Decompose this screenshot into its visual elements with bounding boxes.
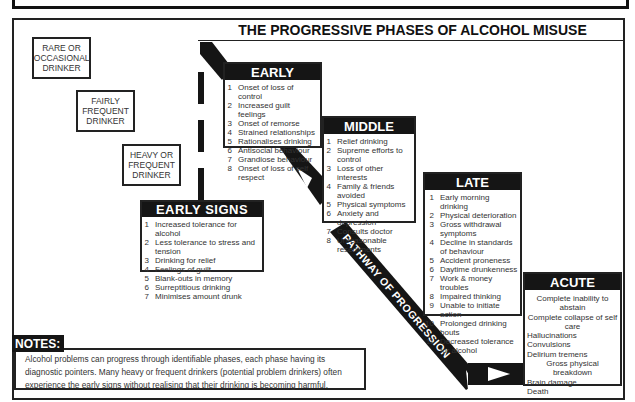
list-item: 9Unable to initiate action — [425, 301, 518, 319]
item-text: Strained relationships — [238, 128, 318, 137]
notes-box: Alcohol problems can progress through id… — [14, 348, 366, 390]
list-item: 1Onset of loss of control — [227, 83, 318, 101]
item-text: Impaired thinking — [440, 292, 518, 301]
item-text: Loss of other interests — [337, 164, 412, 182]
list-item: 3Loss of other interests — [326, 164, 412, 182]
list-item: 6Daytime drunkenness — [425, 265, 518, 274]
item-text: Surreptitious drinking — [155, 283, 260, 292]
list-item: Gross physical breakdown — [527, 359, 618, 378]
item-number: 1 — [425, 193, 434, 211]
list-item: 6Antisocial behaviour — [227, 146, 318, 155]
item-text: Blank-outs in memory — [155, 274, 260, 283]
phase-title: ACUTE — [525, 274, 620, 290]
item-number: 6 — [144, 283, 149, 292]
item-number: 4 — [326, 182, 331, 200]
item-number: 6 — [326, 209, 331, 227]
item-text: Unable to initiate action — [440, 301, 518, 319]
item-text: Physical deterioration — [440, 211, 518, 220]
item-text: Grandiose behaviour — [238, 155, 318, 164]
phase-early-signs: EARLY SIGNS 1Increased tolerance for alc… — [140, 200, 264, 272]
list-item: 5Accident proneness — [425, 256, 518, 265]
item-text: Drinking for relief — [155, 256, 260, 265]
phase-title: MIDDLE — [324, 118, 414, 134]
drinker-label: FAIRLY FREQUENT DRINKER — [78, 96, 133, 126]
item-number: 6 — [227, 146, 232, 155]
item-number: 7 — [326, 227, 331, 236]
list-item: Convulsions — [527, 340, 618, 349]
list-item: 5Blank-outs in memory — [144, 274, 260, 283]
list-item: 4Feelings of guilt — [144, 265, 260, 274]
list-item: 7Consults doctor — [326, 227, 412, 236]
notes-label: NOTES: — [12, 335, 64, 352]
item-number: 3 — [326, 164, 331, 182]
drinker-label: HEAVY OR FREQUENT DRINKER — [124, 150, 179, 180]
item-number: 5 — [227, 137, 232, 146]
item-text: Family & friends avoided — [337, 182, 412, 200]
item-text: Decreased tolerance for alcohol — [440, 337, 518, 355]
item-text: Consults doctor — [337, 227, 412, 236]
list-item: 1Early morning drinking — [425, 193, 518, 211]
item-text: Minimises amount drunk — [155, 292, 260, 301]
list-item: 4Decline in standards of behaviour — [425, 238, 518, 256]
item-text: Antisocial behaviour — [238, 146, 318, 155]
item-text: Feelings of guilt — [155, 265, 260, 274]
item-number: 11 — [425, 337, 434, 355]
item-text: Physical symptoms — [337, 200, 412, 209]
list-item: Delirium tremens — [527, 350, 618, 359]
phase-middle: MIDDLE 1Relief drinking2Supreme efforts … — [322, 116, 416, 223]
item-text: Daytime drunkenness — [440, 265, 518, 274]
list-item: 8Unreasonable resentments — [326, 236, 412, 254]
item-text: Onset of loss of control — [238, 83, 318, 101]
phase-acute: ACUTE Complete inability to abstainCompl… — [523, 272, 622, 386]
item-number: 1 — [144, 220, 149, 238]
item-number: 1 — [326, 137, 331, 146]
list-item: 3Gross withdrawal symptoms — [425, 220, 518, 238]
phase-title: LATE — [425, 174, 520, 190]
item-number: 7 — [227, 155, 232, 164]
list-item: Complete inability to abstain — [527, 294, 618, 313]
item-text: Less tolerance to stress and tension — [155, 238, 260, 256]
list-item: 1Increased tolerance for alcohol — [144, 220, 260, 238]
list-item: 4Strained relationships — [227, 128, 318, 137]
item-number: 1 — [227, 83, 232, 101]
item-text: Anxiety and depression — [337, 209, 412, 227]
item-number: 5 — [326, 200, 331, 209]
list-item: 3Drinking for relief — [144, 256, 260, 265]
item-number: 8 — [326, 236, 331, 254]
item-text: Gross withdrawal symptoms — [440, 220, 518, 238]
item-number: 5 — [425, 256, 434, 265]
list-item: 6Anxiety and depression — [326, 209, 412, 227]
item-number: 2 — [144, 238, 149, 256]
item-number: 2 — [227, 101, 232, 119]
item-text: Work & money troubles — [440, 274, 518, 292]
item-text: Increased guilt feelings — [238, 101, 318, 119]
item-text: Onset of remorse — [238, 119, 318, 128]
item-number: 4 — [144, 265, 149, 274]
phase-early: EARLY 1Onset of loss of control2Increase… — [223, 62, 322, 148]
item-number: 2 — [425, 211, 434, 220]
list-item: 7Grandiose behaviour — [227, 155, 318, 164]
item-number: 7 — [144, 292, 149, 301]
list-item: 2Increased guilt feelings — [227, 101, 318, 119]
list-item: 2Less tolerance to stress and tension — [144, 238, 260, 256]
item-number: 7 — [425, 274, 434, 292]
list-item: 8Onset of loss of self respect — [227, 164, 318, 182]
item-text: Early morning drinking — [440, 193, 518, 211]
item-number: 4 — [425, 238, 434, 256]
drinker-rare-occasional: RARE OR OCCASIONAL DRINKER — [32, 37, 91, 79]
item-text: Decline in standards of behaviour — [440, 238, 518, 256]
item-number: 3 — [144, 256, 149, 265]
list-item: Death — [527, 387, 618, 396]
list-item: 4Family & friends avoided — [326, 182, 412, 200]
list-item: 5Rationalises drinking — [227, 137, 318, 146]
item-text: Rationalises drinking — [238, 137, 318, 146]
item-number: 3 — [227, 119, 232, 128]
phase-title: EARLY SIGNS — [142, 202, 262, 217]
list-item: 11Decreased tolerance for alcohol — [425, 337, 518, 355]
list-item: 7Work & money troubles — [425, 274, 518, 292]
item-number: 9 — [425, 301, 434, 319]
phase-title: EARLY — [225, 64, 320, 80]
list-item: Complete collapse of self care — [527, 313, 618, 332]
list-item: 6Surreptitious drinking — [144, 283, 260, 292]
drinker-label: RARE OR OCCASIONAL DRINKER — [34, 43, 89, 73]
